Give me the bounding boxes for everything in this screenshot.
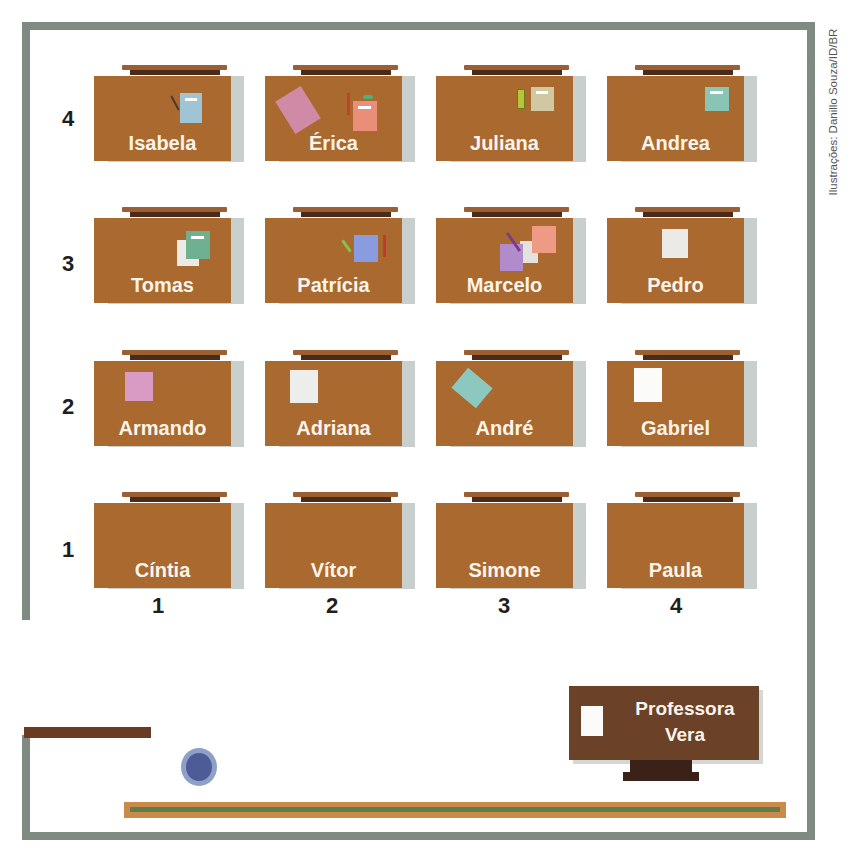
eraser-icon bbox=[363, 95, 373, 99]
pencil-icon bbox=[517, 89, 525, 109]
notebook-icon bbox=[705, 87, 729, 111]
desk-cintia[interactable]: Cíntia bbox=[94, 492, 244, 592]
student-name: Armando bbox=[94, 416, 231, 440]
teacher-desk[interactable]: Professora Vera bbox=[569, 686, 759, 760]
paper-icon bbox=[290, 370, 318, 403]
wall-bottom bbox=[22, 832, 815, 840]
student-name: Isabela bbox=[94, 131, 231, 155]
desk-tomas[interactable]: Tomas bbox=[94, 207, 244, 307]
student-name: Tomas bbox=[94, 273, 231, 297]
desk-paula[interactable]: Paula bbox=[607, 492, 757, 592]
pencil-icon bbox=[347, 93, 350, 115]
teacher-name-line2: Vera bbox=[615, 722, 755, 748]
col-label-3: 3 bbox=[492, 593, 516, 619]
credit-text: Ilustrações: Danillo Souza/ID/BR bbox=[827, 17, 839, 207]
student-name: Gabriel bbox=[607, 416, 744, 440]
paper-icon bbox=[125, 372, 153, 401]
desk-armando[interactable]: Armando bbox=[94, 350, 244, 450]
illustration-credit: Ilustrações: Danillo Souza/ID/BR bbox=[824, 20, 842, 210]
row-label-4: 4 bbox=[56, 106, 80, 132]
desk-adriana[interactable]: Adriana bbox=[265, 350, 415, 450]
notebook-icon bbox=[186, 231, 210, 259]
desk-pedro[interactable]: Pedro bbox=[607, 207, 757, 307]
student-name: Vítor bbox=[265, 558, 402, 582]
desk-andre[interactable]: André bbox=[436, 350, 586, 450]
student-name: Patrícia bbox=[265, 273, 402, 297]
student-name: Marcelo bbox=[436, 273, 573, 297]
student-name: Érica bbox=[265, 131, 402, 155]
notebook-icon bbox=[180, 93, 202, 123]
desk-simone[interactable]: Simone bbox=[436, 492, 586, 592]
student-name: Paula bbox=[607, 558, 744, 582]
student-name: Andrea bbox=[607, 131, 744, 155]
teacher-name-line1: Professora bbox=[615, 696, 755, 722]
wall-left-lower bbox=[22, 735, 30, 840]
desk-vitor[interactable]: Vítor bbox=[265, 492, 415, 592]
desk-juliana[interactable]: Juliana bbox=[436, 65, 586, 165]
paper-icon bbox=[581, 706, 603, 736]
door bbox=[24, 727, 151, 738]
desk-marcelo[interactable]: Marcelo bbox=[436, 207, 586, 307]
wall-left-upper bbox=[22, 22, 30, 620]
desk-erica[interactable]: Érica bbox=[265, 65, 415, 165]
chalkboard-surface bbox=[130, 807, 780, 812]
student-name: Cíntia bbox=[94, 558, 231, 582]
student-name: André bbox=[436, 416, 573, 440]
trash-bin-inner bbox=[186, 753, 212, 781]
col-label-4: 4 bbox=[664, 593, 688, 619]
row-label-2: 2 bbox=[56, 394, 80, 420]
wall-right bbox=[807, 22, 815, 840]
student-name: Simone bbox=[436, 558, 573, 582]
pencil-icon bbox=[383, 235, 386, 257]
desk-isabela[interactable]: Isabela bbox=[94, 65, 244, 165]
student-name: Adriana bbox=[265, 416, 402, 440]
paper-icon bbox=[662, 229, 688, 258]
desk-patricia[interactable]: Patrícia bbox=[265, 207, 415, 307]
wall-top bbox=[22, 22, 815, 30]
student-name: Pedro bbox=[607, 273, 744, 297]
col-label-1: 1 bbox=[146, 593, 170, 619]
col-label-2: 2 bbox=[320, 593, 344, 619]
row-label-3: 3 bbox=[56, 251, 80, 277]
desk-andrea[interactable]: Andrea bbox=[607, 65, 757, 165]
teacher-chair-base bbox=[623, 772, 699, 781]
notebook-icon bbox=[531, 87, 554, 111]
teacher-name: Professora Vera bbox=[615, 696, 755, 748]
notebook-icon bbox=[354, 235, 378, 262]
row-label-1: 1 bbox=[56, 537, 80, 563]
paper-icon bbox=[532, 226, 556, 253]
paper-icon bbox=[634, 368, 662, 402]
notebook-icon bbox=[353, 101, 377, 131]
student-name: Juliana bbox=[436, 131, 573, 155]
desk-gabriel[interactable]: Gabriel bbox=[607, 350, 757, 450]
